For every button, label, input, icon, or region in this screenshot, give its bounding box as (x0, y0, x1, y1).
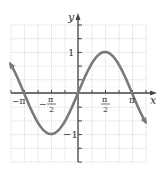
x-tick-label-neg-pi: −π (12, 96, 26, 106)
sine-chart: y x −π − π 2 π 2 π 1 −1 (0, 0, 161, 172)
x-tick-label-neg-half-pi-num: π (48, 95, 53, 104)
x-tick-label-half-pi-den: 2 (103, 105, 108, 114)
y-axis-arrow-icon (76, 13, 81, 20)
y-tick-label-neg-1: −1 (63, 129, 78, 140)
x-tick-label-neg-half-pi-den: 2 (49, 105, 54, 114)
x-tick-label-pi: π (129, 95, 135, 105)
y-axis-label: y (67, 11, 75, 24)
axes (11, 13, 157, 162)
x-tick-label-half-pi-num: π (102, 95, 107, 104)
x-axis-label: x (150, 94, 157, 107)
y-tick-label-1: 1 (68, 47, 74, 58)
x-tick-label-neg-half-pi-minus: − (39, 99, 47, 109)
